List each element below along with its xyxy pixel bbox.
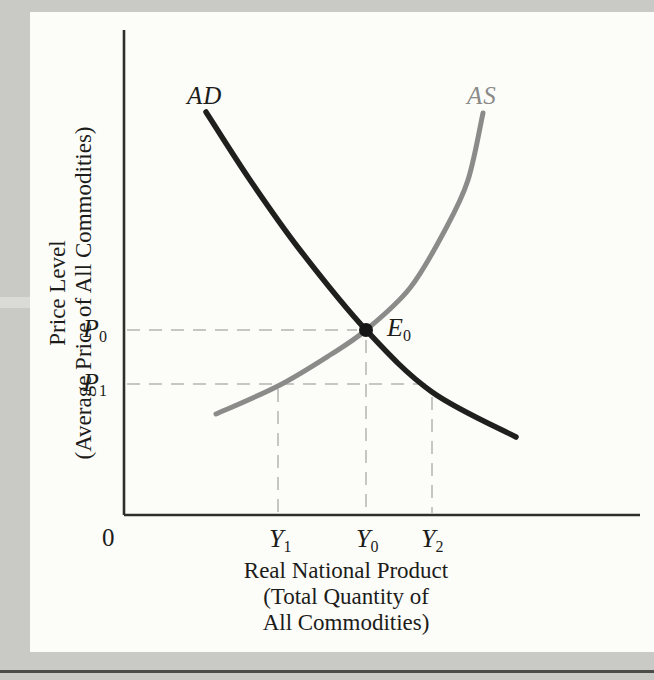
ad-curve-label: AD	[187, 82, 222, 110]
y-axis-title: Price Level (Average Price of All Commod…	[45, 127, 97, 460]
equilibrium-label: E0	[387, 313, 411, 343]
y0-label: Y0	[356, 524, 378, 554]
y1-label: Y1	[269, 524, 291, 554]
y0-sub: 0	[370, 538, 378, 555]
e0-sub: 0	[403, 327, 411, 344]
origin-label: 0	[102, 524, 115, 552]
equilibrium-dot	[359, 323, 373, 337]
as-curve-label: AS	[467, 82, 497, 110]
y2-sub: 2	[435, 538, 443, 555]
y-axis-title-line2: (Average Price of All Commodities)	[71, 127, 97, 460]
y1-sub: 1	[283, 538, 291, 555]
y2-base: Y	[421, 524, 435, 553]
y1-base: Y	[269, 524, 283, 553]
x-axis-title-line3: All Commodities)	[185, 610, 507, 636]
y2-label: Y2	[421, 524, 443, 554]
y0-base: Y	[356, 524, 370, 553]
x-axis-title-line1: Real National Product	[185, 558, 507, 584]
e0-base: E	[387, 313, 403, 342]
ad-curve	[206, 112, 516, 437]
y-axis-title-line1: Price Level	[45, 127, 71, 460]
p0-sub: 0	[99, 328, 107, 345]
x-axis-title: Real National Product (Total Quantity of…	[185, 558, 507, 636]
x-axis-title-line2: (Total Quantity of	[185, 584, 507, 610]
textbook-figure-page: AD AS E0 P0 P1 0 Y1 Y0 Y2 Price Level (A…	[0, 0, 654, 680]
p1-sub: 1	[99, 382, 107, 399]
as-curve	[216, 113, 483, 414]
